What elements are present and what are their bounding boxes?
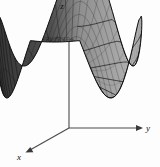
surface-mesh — [0, 0, 142, 131]
surface-body — [0, 0, 142, 98]
x-axis-line — [30, 128, 69, 150]
surface-plot-figure: z y x — [0, 0, 160, 167]
z-axis-label: z — [59, 1, 64, 11]
surface-plot-canvas: z y x — [0, 0, 160, 167]
x-axis-label: x — [16, 152, 21, 162]
y-axis-arrowhead — [136, 125, 143, 131]
y-axis-label: y — [145, 123, 150, 133]
x-axis-arrowhead — [26, 147, 34, 152]
